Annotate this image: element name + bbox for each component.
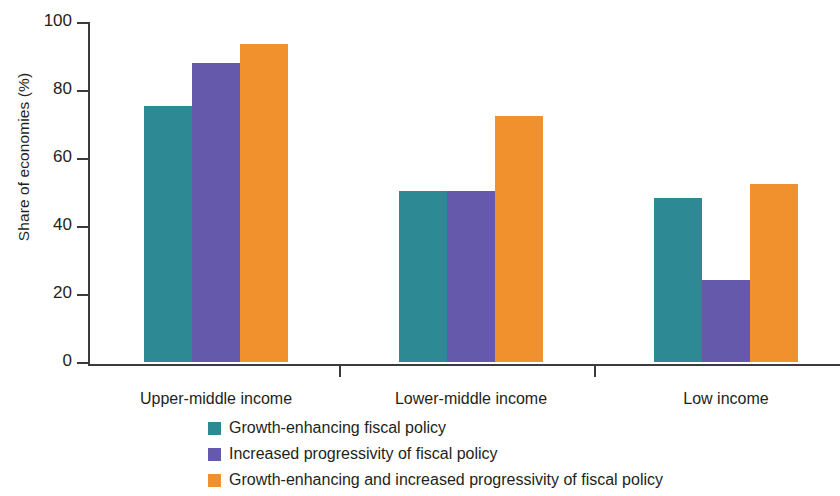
x-axis-category-label: Lower-middle income — [341, 390, 601, 408]
x-axis-category-label: Upper-middle income — [86, 390, 346, 408]
legend-item: Growth-enhancing and increased progressi… — [208, 467, 828, 493]
bar — [144, 106, 192, 363]
legend-label: Growth-enhancing and increased progressi… — [229, 471, 663, 489]
bar-chart-figure: Share of economies (%) 0 20 40 60 80 100 — [0, 0, 840, 496]
bar — [192, 63, 240, 362]
bar — [750, 184, 798, 362]
legend-item: Growth-enhancing fiscal policy — [208, 415, 828, 441]
legend-item: Increased progressivity of fiscal policy — [208, 441, 828, 467]
legend: Growth-enhancing fiscal policy Increased… — [208, 415, 828, 493]
bar — [447, 191, 495, 362]
y-axis-tick-label: 0 — [63, 351, 72, 371]
legend-swatch-icon — [208, 422, 221, 435]
legend-label: Growth-enhancing fiscal policy — [229, 419, 446, 437]
y-axis-tick: 100 — [77, 22, 88, 24]
y-axis-tick: 20 — [77, 294, 88, 296]
y-axis-line — [88, 22, 90, 365]
y-axis-tick: 0 — [77, 362, 88, 364]
x-axis-category-label: Low income — [596, 390, 840, 408]
bar-group — [144, 20, 288, 362]
x-axis-tick — [594, 366, 596, 377]
bar — [399, 191, 447, 362]
bar — [702, 280, 750, 362]
y-axis-title: Share of economies (%) — [15, 47, 33, 267]
x-axis-tick — [339, 366, 341, 377]
y-axis-tick-label: 80 — [53, 79, 72, 99]
x-axis-line — [88, 364, 840, 366]
plot-area: 0 20 40 60 80 100 Upper-middle income — [88, 22, 840, 364]
bar-group — [654, 20, 798, 362]
bar — [240, 44, 288, 362]
y-axis-tick: 60 — [77, 158, 88, 160]
y-axis-tick-label: 40 — [53, 215, 72, 235]
y-axis-tick: 80 — [77, 90, 88, 92]
legend-swatch-icon — [208, 448, 221, 461]
bar-group — [399, 20, 543, 362]
legend-label: Increased progressivity of fiscal policy — [229, 445, 498, 463]
legend-swatch-icon — [208, 474, 221, 487]
y-axis-tick: 40 — [77, 226, 88, 228]
y-axis-tick-label: 60 — [53, 147, 72, 167]
y-axis-tick-label: 20 — [53, 283, 72, 303]
bar — [495, 116, 543, 362]
y-axis-tick-label: 100 — [44, 11, 72, 31]
bar — [654, 198, 702, 362]
